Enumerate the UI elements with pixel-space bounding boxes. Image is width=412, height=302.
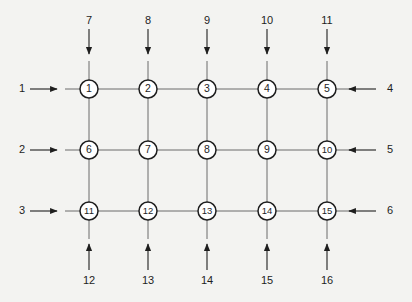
input-label-11: 11 bbox=[321, 14, 332, 26]
node-label: 11 bbox=[84, 205, 94, 216]
input-label-16: 16 bbox=[321, 274, 333, 286]
node-label: 3 bbox=[204, 82, 210, 94]
node-1: 1 bbox=[80, 80, 98, 98]
node-9: 9 bbox=[258, 141, 276, 159]
node-13: 13 bbox=[198, 202, 216, 220]
input-label-12: 12 bbox=[83, 274, 95, 286]
node-4: 4 bbox=[258, 80, 276, 98]
node-11: 11 bbox=[80, 202, 98, 220]
input-label-1: 1 bbox=[19, 82, 25, 94]
node-label: 9 bbox=[264, 143, 270, 155]
input-label-10: 10 bbox=[261, 14, 273, 26]
node-3: 3 bbox=[198, 80, 216, 98]
input-label-4: 4 bbox=[387, 82, 393, 94]
node-5: 5 bbox=[318, 80, 336, 98]
input-label-5: 5 bbox=[387, 143, 393, 155]
node-label: 4 bbox=[264, 82, 270, 94]
node-label: 15 bbox=[322, 205, 333, 216]
input-label-9: 9 bbox=[204, 14, 210, 26]
input-label-15: 15 bbox=[261, 274, 273, 286]
grid-network-diagram: 123456789101112131415 123456789101112131… bbox=[0, 0, 412, 302]
node-6: 6 bbox=[80, 141, 98, 159]
input-label-3: 3 bbox=[19, 204, 25, 216]
node-2: 2 bbox=[139, 80, 157, 98]
input-label-2: 2 bbox=[19, 143, 25, 155]
node-label: 13 bbox=[202, 205, 213, 216]
input-label-8: 8 bbox=[145, 14, 151, 26]
input-label-14: 14 bbox=[201, 274, 213, 286]
node-label: 5 bbox=[324, 82, 330, 94]
node-label: 12 bbox=[143, 205, 154, 216]
node-14: 14 bbox=[258, 202, 276, 220]
input-label-7: 7 bbox=[86, 14, 92, 26]
node-label: 8 bbox=[204, 143, 210, 155]
node-8: 8 bbox=[198, 141, 216, 159]
node-12: 12 bbox=[139, 202, 157, 220]
node-10: 10 bbox=[318, 141, 336, 159]
node-label: 2 bbox=[145, 82, 151, 94]
node-label: 10 bbox=[322, 144, 333, 155]
node-label: 1 bbox=[86, 82, 92, 94]
input-label-6: 6 bbox=[387, 204, 393, 216]
node-15: 15 bbox=[318, 202, 336, 220]
node-label: 7 bbox=[145, 143, 151, 155]
node-label: 6 bbox=[86, 143, 92, 155]
node-label: 14 bbox=[262, 205, 273, 216]
node-7: 7 bbox=[139, 141, 157, 159]
input-label-13: 13 bbox=[142, 274, 154, 286]
